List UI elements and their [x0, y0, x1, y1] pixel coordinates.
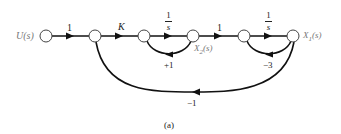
frac-denominator: s	[167, 23, 171, 32]
gain-1-over-s-b: 1 s	[265, 11, 272, 32]
arrow-icon	[165, 52, 173, 58]
node-u	[40, 30, 52, 42]
gain-x2-n5: 1	[217, 23, 222, 33]
arrow-icon	[66, 33, 74, 40]
gain-plus1: +1	[164, 61, 174, 70]
node-2	[89, 30, 101, 42]
arrow-icon	[265, 52, 273, 58]
figure-caption: (a)	[164, 121, 174, 130]
node-label-x2: X2(s)	[194, 44, 213, 56]
node-label-x1: X1(s)	[303, 31, 322, 43]
frac-numerator: 1	[266, 11, 271, 20]
gain-minus3: −3	[263, 61, 273, 70]
arrow-icon	[164, 33, 172, 40]
node-3	[138, 30, 150, 42]
arrow-icon	[264, 33, 272, 40]
arrow-icon	[115, 33, 123, 40]
feedback-loop-minus3	[247, 41, 291, 54]
gain-1-over-s-a: 1 s	[165, 11, 172, 32]
input-label-u: U(s)	[16, 31, 34, 41]
node-x2	[187, 30, 199, 42]
node-x1	[287, 30, 299, 42]
feedback-loop-plus1	[147, 41, 191, 54]
arrow-icon	[214, 33, 222, 40]
frac-numerator: 1	[166, 11, 171, 20]
gain-u-n2: 1	[67, 23, 72, 33]
frac-denominator: s	[267, 23, 271, 32]
gain-minus1: −1	[187, 99, 197, 108]
arrow-icon	[192, 89, 200, 96]
node-5	[238, 30, 250, 42]
x2-tail: (s)	[203, 43, 213, 53]
x1-tail: (s)	[312, 30, 322, 40]
gain-k: K	[118, 22, 125, 32]
